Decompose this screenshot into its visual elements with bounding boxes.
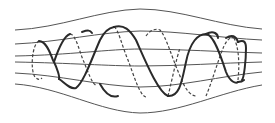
helix-trajectory-front <box>39 26 246 96</box>
field-line-2 <box>15 49 262 56</box>
helix-back-segment-6 <box>234 38 239 80</box>
helix-front-segment-1 <box>54 34 70 62</box>
helix-back-segment-5 <box>206 37 234 96</box>
field-line-3 <box>15 62 262 66</box>
helix-front-segment-8 <box>226 36 238 42</box>
magnetic-field-lines <box>15 9 262 113</box>
field-line-0 <box>15 9 262 30</box>
helix-front-segment-0 <box>39 41 59 79</box>
diagram-canvas <box>0 0 275 123</box>
helix-front-segment-5 <box>100 84 118 97</box>
helix-back-segment-0 <box>32 41 42 79</box>
helix-front-segment-3 <box>82 31 92 33</box>
magnetic-bottle-diagram <box>0 0 275 123</box>
field-line-1 <box>15 31 262 44</box>
field-line-4 <box>15 72 262 87</box>
helix-front-segment-10 <box>238 80 244 82</box>
